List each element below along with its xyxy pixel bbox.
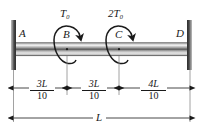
torque-label-t0: T₀ xyxy=(60,8,70,19)
node-label-d: D xyxy=(176,28,184,39)
dimension-label-ab-den: 10 xyxy=(30,91,54,101)
dimension-label-cd-num: 4L xyxy=(141,79,166,89)
dimension-label-bc-num: 3L xyxy=(82,79,106,89)
wall-support-right xyxy=(187,20,192,70)
dimension-label-cd-den: 10 xyxy=(141,91,166,101)
dimension-label-ab: 3L 10 xyxy=(30,79,54,101)
torque-label-t0-text: T₀ xyxy=(60,7,70,19)
dimension-label-cd: 4L 10 xyxy=(141,79,166,101)
torque-label-2t0-text: 2T₀ xyxy=(108,7,123,19)
dimension-label-ab-num: 3L xyxy=(30,79,54,89)
node-label-b: B xyxy=(63,29,70,40)
dimension-label-bc: 3L 10 xyxy=(82,79,106,101)
node-label-c: C xyxy=(115,29,122,40)
dimension-label-bc-den: 10 xyxy=(82,91,106,101)
shaft xyxy=(14,43,190,57)
torque-label-2t0: 2T₀ xyxy=(108,8,123,19)
wall-support-left xyxy=(11,20,16,70)
torsion-shaft-diagram: A B C D T₀ 2T₀ 3L 10 3L 10 4L 10 L xyxy=(0,0,202,131)
node-label-a: A xyxy=(19,28,26,39)
dimension-label-total: L xyxy=(96,111,102,123)
